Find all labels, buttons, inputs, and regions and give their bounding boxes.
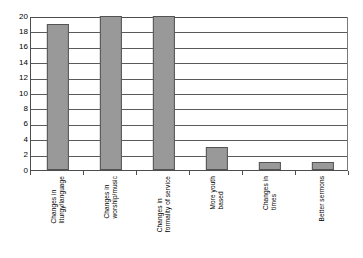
- bar-slot: [84, 17, 137, 170]
- x-axis-label-line: Changes in: [261, 176, 269, 210]
- x-axis: Changes inliturgy/languageChanges inwors…: [30, 176, 348, 258]
- bar[interactable]: [205, 147, 227, 170]
- bar[interactable]: [311, 162, 333, 170]
- x-axis-label: More youthbased: [208, 176, 223, 210]
- x-label-slot: Changes inliturgy/language: [30, 176, 83, 258]
- bar[interactable]: [152, 16, 174, 170]
- x-tick: [242, 171, 243, 175]
- x-tick: [83, 171, 84, 175]
- x-label-slot: Changes informality of service: [136, 176, 189, 258]
- bar-slot: [190, 17, 243, 170]
- x-tick: [295, 171, 296, 175]
- bar[interactable]: [258, 162, 280, 170]
- y-tick-label: 18: [19, 28, 28, 36]
- x-axis-label: Changes inliturgy/language: [49, 176, 64, 224]
- plot-area: [30, 17, 348, 171]
- x-axis-label-line: Changes in: [155, 176, 163, 232]
- bar-chart: 20181614121086420 Changes inliturgy/lang…: [0, 0, 363, 258]
- y-tick-label: 14: [19, 59, 28, 67]
- x-label-slot: More youthbased: [189, 176, 242, 258]
- y-tick-label: 20: [19, 13, 28, 21]
- y-tick-label: 6: [23, 120, 28, 128]
- y-tick-label: 10: [19, 90, 28, 98]
- x-axis-label: Changes inworship/music: [102, 176, 117, 218]
- x-axis-label-line: based: [216, 176, 224, 210]
- y-tick-label: 4: [23, 136, 28, 144]
- bar-slot: [243, 17, 296, 170]
- x-axis-label-line: More youth: [208, 176, 216, 210]
- x-axis-label-line: liturgy/language: [57, 176, 65, 224]
- x-label-slot: Changes intimes: [242, 176, 295, 258]
- y-tick-label: 0: [23, 167, 28, 175]
- bar-slot: [296, 17, 349, 170]
- bar[interactable]: [99, 16, 121, 170]
- x-axis-label-line: Changes in: [102, 176, 110, 218]
- x-axis-label: Better sermons: [318, 176, 326, 221]
- x-axis-label-line: worship/music: [110, 176, 118, 218]
- x-axis-label-line: times: [269, 176, 277, 210]
- x-axis-label: Changes informality of service: [155, 176, 170, 232]
- bar-slot: [31, 17, 84, 170]
- y-axis: 20181614121086420: [0, 0, 30, 258]
- x-axis-label-line: formality of service: [163, 176, 171, 232]
- x-axis-label-line: Better sermons: [318, 176, 326, 221]
- x-label-slot: Better sermons: [295, 176, 348, 258]
- x-tick: [189, 171, 190, 175]
- x-label-slot: Changes inworship/music: [83, 176, 136, 258]
- bar[interactable]: [46, 24, 68, 170]
- x-tick: [348, 171, 349, 175]
- y-tick-label: 8: [23, 105, 28, 113]
- bars-series: [31, 17, 347, 170]
- x-axis-label: Changes intimes: [261, 176, 276, 210]
- x-axis-label-line: Changes in: [49, 176, 57, 224]
- y-tick-label: 2: [23, 151, 28, 159]
- y-tick-label: 16: [19, 43, 28, 51]
- x-tick: [30, 171, 31, 175]
- x-tick: [136, 171, 137, 175]
- y-tick-label: 12: [19, 74, 28, 82]
- bar-slot: [137, 17, 190, 170]
